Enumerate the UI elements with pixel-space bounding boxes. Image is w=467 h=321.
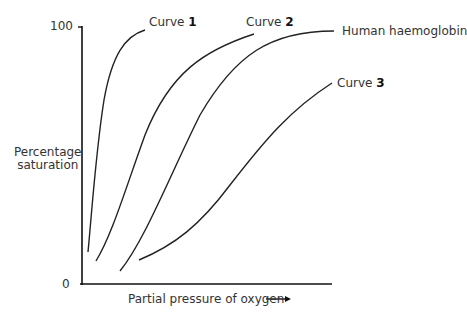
x-arrow-head-icon	[285, 296, 291, 302]
curve-2-label: Curve 2	[246, 15, 294, 29]
curve-3-label-num: 3	[376, 76, 384, 90]
curve-2-line	[96, 34, 254, 261]
human-haemoglobin-label: Human haemoglobin	[342, 24, 467, 38]
curve-1-label: Curve 1	[149, 15, 197, 29]
y-tick-label-100: 100	[50, 19, 73, 33]
curve-1-label-num: 1	[188, 15, 196, 29]
x-axis-label: Partial pressure of oxygen	[128, 292, 284, 306]
curve-2-label-num: 2	[285, 15, 293, 29]
y-axis-label: Percentage saturation	[14, 146, 82, 172]
y-axis-label-line2: saturation	[14, 159, 82, 172]
curve-1-line	[88, 30, 145, 252]
curve-3-label: Curve 3	[337, 76, 385, 90]
curve-3-label-text: Curve	[337, 76, 376, 90]
curve-2-label-text: Curve	[246, 15, 285, 29]
curve-1-label-text: Curve	[149, 15, 188, 29]
human-haemoglobin-line	[120, 31, 334, 271]
curve-3-line	[139, 83, 332, 260]
y-tick-label-0: 0	[62, 277, 70, 291]
